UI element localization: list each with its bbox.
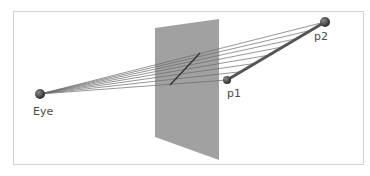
- p2-label: p2: [314, 30, 328, 43]
- eye-label: Eye: [33, 105, 53, 118]
- image-plane: [155, 19, 219, 160]
- p2-point-icon: [320, 17, 330, 27]
- p1-label: p1: [227, 87, 241, 100]
- eye-point-icon: [35, 89, 45, 99]
- ray-line: [40, 78, 155, 94]
- p1-point-icon: [223, 76, 231, 84]
- ray-line: [40, 74, 155, 94]
- segment-p1-p2: [227, 22, 325, 80]
- perspective-diagram: [0, 0, 370, 176]
